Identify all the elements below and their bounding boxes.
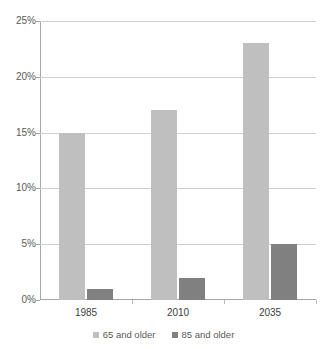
x-axis-tick-label: 2010 [132, 307, 224, 319]
y-axis-tick-label: 5% [0, 239, 36, 249]
x-axis-tick-mark [224, 300, 225, 304]
bar-chart: 0%5%10%15%20%25% 198520102035 65 and old… [0, 0, 327, 349]
x-axis-tick-label: 1985 [40, 307, 132, 319]
legend-item-65-and-older[interactable]: 65 and older [93, 329, 156, 340]
gridline [40, 21, 316, 22]
legend-label: 65 and older [103, 329, 156, 340]
bar-2035-85-and-older [271, 244, 297, 300]
legend-item-85-and-older[interactable]: 85 and older [172, 329, 235, 340]
legend-swatch-icon [172, 332, 178, 338]
bar-1985-85-and-older [87, 289, 113, 300]
y-axis-tick-mark [36, 188, 40, 189]
chart-legend: 65 and older85 and older [0, 329, 327, 340]
x-axis-tick-mark [132, 300, 133, 304]
bar-2010-85-and-older [179, 278, 205, 300]
y-axis-tick-mark [36, 300, 40, 301]
x-axis-tick-label: 2035 [224, 307, 316, 319]
bar-2035-65-and-older [243, 43, 269, 300]
gridline [40, 77, 316, 78]
bar-2010-65-and-older [151, 110, 177, 300]
y-axis-tick-mark [36, 133, 40, 134]
y-axis-tick-label: 0% [0, 295, 36, 305]
bar-1985-65-and-older [59, 133, 85, 300]
y-axis-tick-label: 25% [0, 16, 36, 26]
legend-label: 85 and older [182, 329, 235, 340]
y-axis-tick-mark [36, 244, 40, 245]
legend-swatch-icon [93, 332, 99, 338]
plot-area [40, 21, 316, 300]
x-axis-tick-mark [316, 300, 317, 304]
y-axis-tick-mark [36, 21, 40, 22]
y-axis-tick-label: 20% [0, 72, 36, 82]
y-axis-tick-mark [36, 77, 40, 78]
y-axis-tick-label: 10% [0, 183, 36, 193]
y-axis-tick-label: 15% [0, 128, 36, 138]
